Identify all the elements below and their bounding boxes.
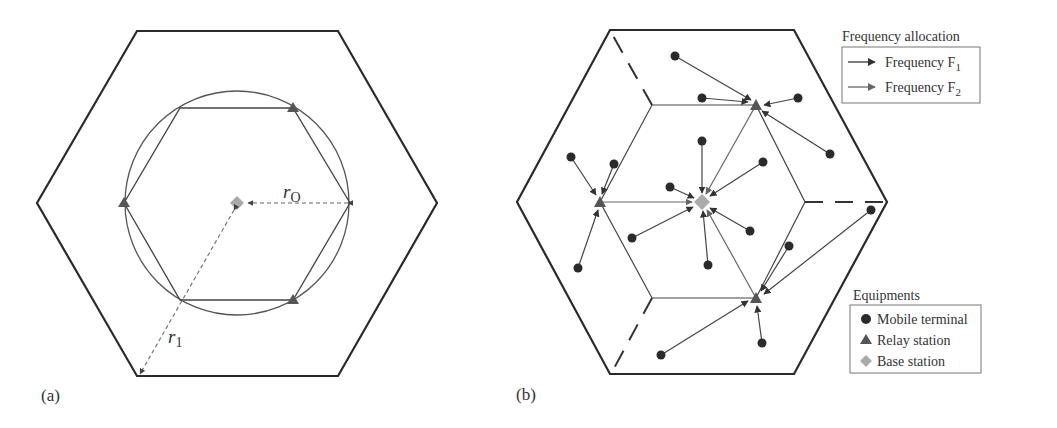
frequency-f1-label: Frequency F1: [885, 55, 961, 73]
mobile-terminal-icon: [861, 314, 871, 324]
panel-b: (b) Frequency allocation Frequency F1 Fr…: [516, 29, 981, 404]
base-station-icon: [860, 355, 872, 367]
panel-b-label: (b): [516, 385, 536, 404]
frequency-legend-title: Frequency allocation: [842, 29, 960, 44]
mobile-terminal-icon: [657, 351, 666, 360]
mobile-terminal-icon: [794, 94, 803, 103]
sector-border: [612, 34, 652, 105]
frequency-f2-label: Frequency F2: [885, 80, 961, 98]
mobile-terminal-icon: [698, 137, 707, 146]
mobile-terminal-icon: [610, 160, 619, 169]
mobile-terminal-icon: [698, 94, 707, 103]
diagram-canvas: rO r1 (a): [0, 0, 1057, 428]
links-to-base: [600, 105, 763, 298]
equipment-legend: Equipments Mobile terminal Relay station…: [850, 288, 981, 373]
mobile-terminal-icon: [671, 52, 680, 61]
mobile-terminal-icon: [567, 153, 576, 162]
r-outer-label: rO: [283, 181, 301, 205]
mobile-terminal-icon: [867, 206, 876, 215]
legend-mobile-terminal: Mobile terminal: [877, 312, 968, 327]
r-inner-label: r1: [168, 326, 182, 350]
mobile-terminal-icon: [826, 150, 835, 159]
links-to-relay-left: [571, 157, 614, 268]
frequency-legend: Frequency allocation Frequency F1 Freque…: [842, 29, 980, 103]
panel-a-label: (a): [41, 386, 60, 405]
r-inner-arrow: [140, 210, 234, 374]
relay-station-icon: [118, 197, 130, 207]
equipment-legend-title: Equipments: [853, 288, 920, 303]
mobile-terminal-icon: [574, 264, 583, 273]
legend-base-station: Base station: [877, 354, 945, 369]
mobile-terminal-icon: [758, 339, 767, 348]
mobile-terminal-icon: [746, 227, 755, 236]
relay-station-icon: [860, 334, 872, 344]
mobile-terminal-icon: [628, 234, 637, 243]
mobile-terminal-icon: [759, 158, 768, 167]
panel-a: rO r1 (a): [37, 31, 437, 405]
sector-border: [612, 298, 652, 372]
base-station-icon: [694, 194, 710, 210]
mobile-terminals: [567, 52, 876, 360]
mobile-terminal-icon: [785, 242, 794, 251]
links-to-relay-bottom: [661, 210, 871, 355]
mobile-terminal-icon: [666, 183, 675, 192]
legend-relay-station: Relay station: [877, 333, 951, 348]
base-station-icon: [230, 196, 244, 210]
relay-station-icon: [287, 294, 299, 304]
mobile-terminal-icon: [704, 261, 713, 270]
